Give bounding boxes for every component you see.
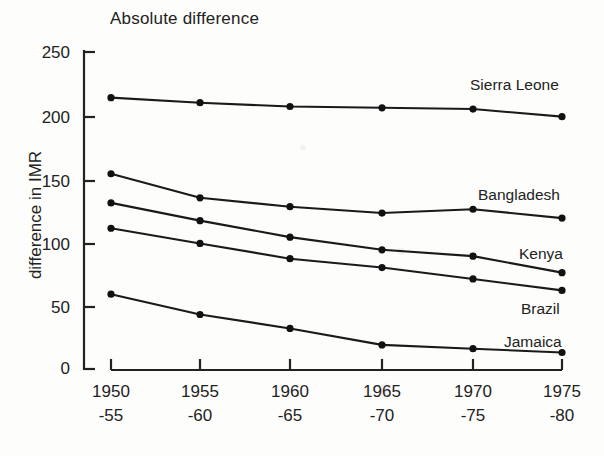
series-jamaica (107, 291, 565, 357)
data-point-bangladesh-2 (286, 203, 293, 210)
data-point-jamaica-3 (378, 341, 385, 348)
data-point-jamaica-5 (558, 349, 565, 356)
data-point-jamaica-1 (196, 311, 203, 318)
data-point-brazil-3 (378, 264, 385, 271)
data-point-bangladesh-4 (469, 206, 476, 213)
data-point-sierra-leone-5 (558, 113, 565, 120)
data-point-bangladesh-3 (378, 209, 385, 216)
data-point-sierra-leone-1 (196, 99, 203, 106)
data-point-jamaica-2 (286, 325, 293, 332)
series-brazil (107, 225, 565, 294)
series-bangladesh (107, 170, 565, 222)
data-point-bangladesh-5 (558, 215, 565, 222)
data-point-kenya-1 (196, 217, 203, 224)
series-line-jamaica (111, 294, 562, 352)
data-point-brazil-1 (196, 240, 203, 247)
data-point-bangladesh-1 (196, 194, 203, 201)
data-point-sierra-leone-2 (286, 103, 293, 110)
series-line-sierra-leone (111, 98, 562, 117)
data-point-kenya-5 (558, 269, 565, 276)
data-point-brazil-0 (107, 225, 114, 232)
data-point-kenya-0 (107, 199, 114, 206)
data-point-kenya-4 (469, 253, 476, 260)
series-lines (107, 94, 565, 356)
data-point-kenya-2 (286, 234, 293, 241)
data-point-jamaica-4 (469, 345, 476, 352)
x-tick-marks (111, 359, 562, 370)
data-point-sierra-leone-3 (378, 104, 385, 111)
y-tick-marks (84, 52, 95, 369)
data-point-sierra-leone-4 (469, 105, 476, 112)
data-point-jamaica-0 (107, 291, 114, 298)
series-line-bangladesh (111, 174, 562, 218)
data-point-brazil-5 (558, 287, 565, 294)
chart-page: Absolute difference difference in IMR 25… (0, 0, 604, 456)
data-point-bangladesh-0 (107, 170, 114, 177)
plot-area (0, 0, 604, 456)
data-point-kenya-3 (378, 246, 385, 253)
data-point-brazil-2 (286, 255, 293, 262)
series-sierra-leone (107, 94, 565, 120)
data-point-brazil-4 (469, 275, 476, 282)
data-point-sierra-leone-0 (107, 94, 114, 101)
